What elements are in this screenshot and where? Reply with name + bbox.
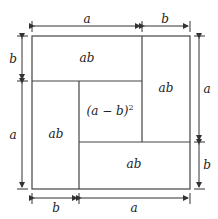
center-exponent: 2 <box>128 103 133 112</box>
region-left-label: ab <box>49 127 64 141</box>
region-center-label: (a − b)2 <box>87 103 134 118</box>
dim-bottom-b: b <box>52 201 60 215</box>
dim-left-b: b <box>9 52 17 66</box>
dim-bottom-a: a <box>130 201 137 215</box>
dim-right-a: a <box>203 82 210 96</box>
region-bottom-label: ab <box>127 157 142 171</box>
center-base: (a − b) <box>87 104 129 118</box>
dim-right-b: b <box>203 158 211 172</box>
region-top-left-label: ab <box>80 51 95 65</box>
dim-top-b: b <box>161 12 169 26</box>
dim-top-a: a <box>83 12 90 26</box>
dim-left-a: a <box>9 128 16 142</box>
region-right-label: ab <box>159 81 174 95</box>
